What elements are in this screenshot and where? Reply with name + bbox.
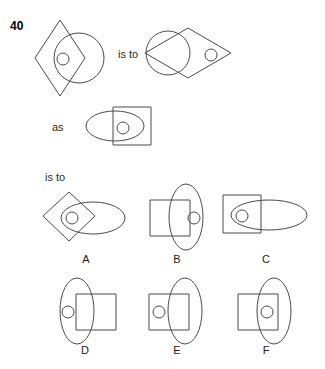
stem-right-figure (143, 25, 235, 85)
small-circle-shape (66, 212, 78, 224)
square-shape (113, 107, 151, 145)
option-a-figure[interactable] (33, 189, 129, 253)
small-circle-shape (205, 49, 217, 61)
horizontal-ellipse-shape (231, 200, 307, 230)
small-circle-shape (153, 306, 165, 318)
vertical-diamond-shape (35, 20, 85, 96)
square-shape (76, 294, 116, 330)
vertical-ellipse-shape (168, 278, 202, 344)
medium-circle-shape (146, 31, 190, 75)
small-circle-shape (57, 53, 69, 65)
small-circle-shape (236, 210, 248, 222)
option-f-figure[interactable] (234, 277, 304, 347)
option-c-figure[interactable] (219, 189, 311, 247)
option-label-c[interactable]: C (256, 253, 276, 265)
option-label-a[interactable]: A (76, 253, 96, 265)
option-d-figure[interactable] (55, 277, 123, 347)
vertical-ellipse-shape (60, 278, 94, 344)
medium-circle-shape (54, 33, 104, 83)
option-label-f[interactable]: F (256, 344, 276, 356)
vertical-ellipse-shape (169, 184, 203, 250)
as-row-figure (84, 103, 154, 153)
horizontal-ellipse-shape (86, 111, 144, 141)
option-label-e[interactable]: E (167, 344, 187, 356)
option-e-figure[interactable] (145, 277, 215, 347)
connector-as: as (52, 121, 64, 133)
connector-is-to-second: is to (45, 171, 65, 183)
option-b-figure[interactable] (146, 183, 222, 253)
small-circle-shape (261, 306, 273, 318)
vertical-ellipse-shape (257, 278, 291, 344)
small-circle-shape (62, 306, 74, 318)
small-circle-shape (117, 122, 129, 134)
stem-left-figure (33, 18, 107, 98)
option-label-d[interactable]: D (75, 344, 95, 356)
horizontal-diamond-shape (145, 28, 231, 78)
option-label-b[interactable]: B (167, 253, 187, 265)
puzzle-number: 40 (10, 19, 24, 33)
connector-is-to-first: is to (118, 48, 138, 60)
